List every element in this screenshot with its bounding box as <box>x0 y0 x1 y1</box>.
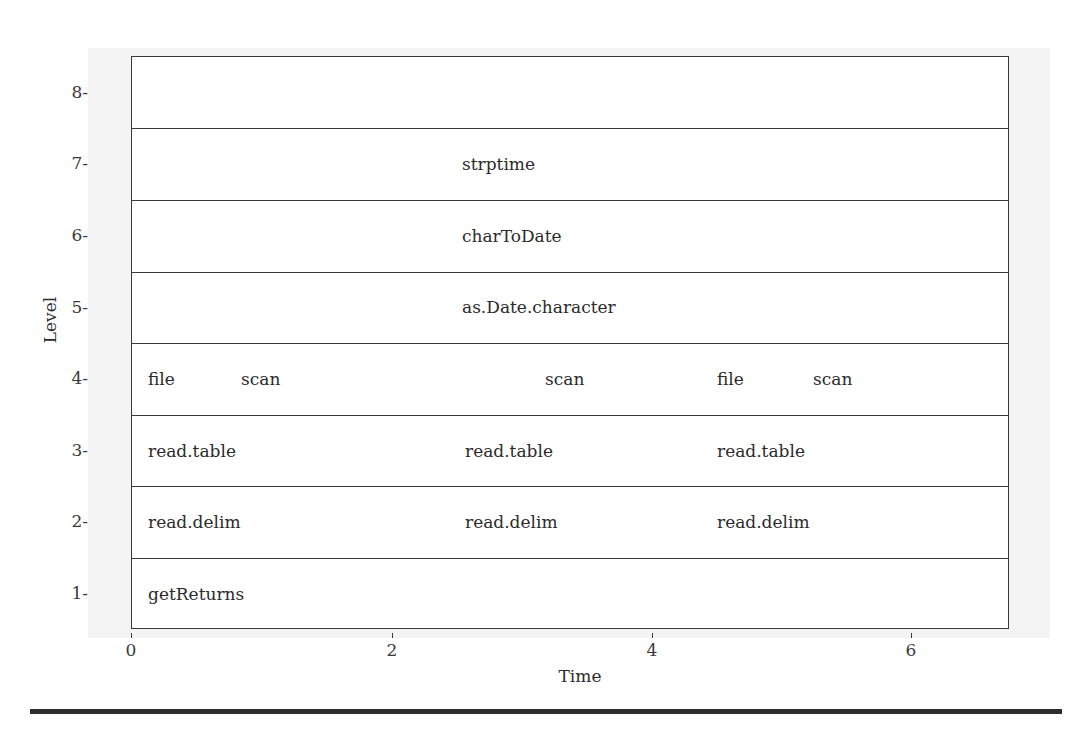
plot-area: strptime charToDate as.Date.character fi… <box>131 56 1009 629</box>
ytick-6: 6- <box>30 225 88 245</box>
xtick-mark-4 <box>652 633 653 638</box>
frame-label: read.delim <box>717 512 810 532</box>
frame-label: getReturns <box>148 584 244 604</box>
row-level-4: file scan scan file scan <box>132 343 1008 415</box>
ytick-7: 7- <box>30 153 88 173</box>
frame-label: read.table <box>465 441 553 461</box>
frame-label: as.Date.character <box>462 297 616 317</box>
ytick-8: 8- <box>30 82 88 102</box>
ytick-1: 1- <box>30 583 88 603</box>
frame-label: scan <box>545 369 584 389</box>
frame-label: read.delim <box>148 512 241 532</box>
horizontal-rule <box>30 709 1062 714</box>
frame-label: read.table <box>148 441 236 461</box>
ytick-3: 3- <box>30 440 88 460</box>
frame-label: charToDate <box>462 226 562 246</box>
ytick-2: 2- <box>30 511 88 531</box>
xtick-4: 4 <box>637 640 667 660</box>
row-level-3: read.table read.table read.table <box>132 415 1008 486</box>
frame-label: read.table <box>717 441 805 461</box>
row-level-8 <box>132 57 1008 128</box>
xtick-mark-0 <box>131 633 132 638</box>
row-level-2: read.delim read.delim read.delim <box>132 486 1008 558</box>
x-axis-label: Time <box>530 666 630 686</box>
xtick-6: 6 <box>896 640 926 660</box>
frame-label: read.delim <box>465 512 558 532</box>
xtick-2: 2 <box>377 640 407 660</box>
frame-label: strptime <box>462 154 535 174</box>
xtick-mark-6 <box>911 633 912 638</box>
row-level-7: strptime <box>132 128 1008 200</box>
xtick-0: 0 <box>116 640 146 660</box>
frame-label: file <box>717 369 744 389</box>
ytick-4: 4- <box>30 368 88 388</box>
xtick-mark-2 <box>392 633 393 638</box>
row-level-1: getReturns <box>132 558 1008 629</box>
frame-label: file <box>148 369 175 389</box>
y-axis-label: Level <box>40 290 60 350</box>
row-level-5: as.Date.character <box>132 272 1008 343</box>
frame-label: scan <box>241 369 280 389</box>
frame-label: scan <box>813 369 852 389</box>
row-level-6: charToDate <box>132 200 1008 272</box>
